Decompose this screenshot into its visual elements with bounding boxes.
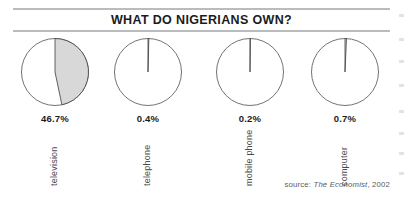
- chart-title: WHAT DO NIGERIANS OWN?: [13, 11, 390, 29]
- percent-label: 0.4%: [110, 113, 186, 124]
- source-prefix: source:: [285, 180, 314, 189]
- source-credit: source: The Economist, 2002: [285, 180, 390, 189]
- edge-artifact-mark: [399, 110, 404, 113]
- source-publication: The Economist: [313, 180, 367, 189]
- edge-artifact-mark: [399, 152, 404, 155]
- title-rule-top: [13, 8, 390, 10]
- title-rule-bottom: [13, 30, 390, 32]
- pie-chart-television: [17, 34, 93, 110]
- percent-label: 0.2%: [212, 113, 288, 124]
- pie-chart-mobile-phone: [212, 34, 288, 110]
- pie-chart-computer: [307, 34, 383, 110]
- category-label-wrap: telephone: [110, 128, 186, 186]
- percent-label: 46.7%: [17, 113, 93, 124]
- category-label: telephone: [142, 145, 152, 186]
- pie-slice-value: [55, 39, 88, 105]
- edge-artifact-mark: [399, 14, 404, 17]
- pie-chart-telephone: [110, 34, 186, 110]
- category-label: mobile phone: [244, 130, 254, 186]
- source-suffix: , 2002: [367, 180, 390, 189]
- pie-chart-figure: WHAT DO NIGERIANS OWN? 46.7%0.4%0.2%0.7%…: [0, 0, 408, 203]
- category-label-wrap: computer: [307, 128, 383, 186]
- percent-label: 0.7%: [307, 113, 383, 124]
- category-label-wrap: mobile phone: [212, 128, 288, 186]
- category-label: television: [49, 146, 59, 186]
- category-label-wrap: television: [17, 128, 93, 186]
- edge-artifact-mark: [399, 132, 404, 135]
- pie-row: [0, 34, 408, 110]
- edge-artifact-mark: [399, 172, 404, 175]
